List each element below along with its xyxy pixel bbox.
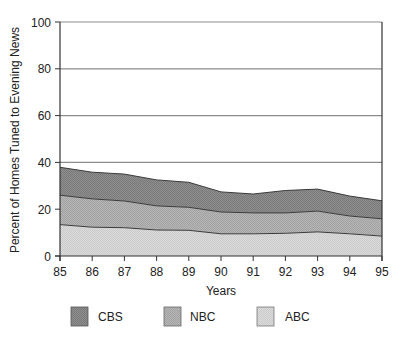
legend-label-nbc: NBC: [190, 310, 216, 324]
x-tick-label: 91: [247, 265, 261, 279]
y-tick-label: 40: [38, 156, 52, 170]
x-tick-label: 85: [53, 265, 67, 279]
stacked-area-chart: 020406080100 8586878889909192939495 Perc…: [0, 0, 402, 339]
legend-item-abc: ABC: [257, 307, 310, 326]
legend-swatch-nbc: [164, 307, 181, 326]
y-tick-label: 20: [38, 203, 52, 217]
y-axis-title: Percent of Homes Tuned to Evening News: [8, 27, 22, 253]
x-tick-label: 87: [118, 265, 132, 279]
legend: CBS NBC ABC: [71, 307, 310, 326]
x-tick-label: 90: [214, 265, 228, 279]
legend-swatch-cbs: [71, 307, 88, 326]
x-tick-label: 92: [279, 265, 293, 279]
x-tick-label: 86: [86, 265, 100, 279]
legend-item-cbs: CBS: [71, 307, 123, 326]
legend-swatch-abc: [257, 307, 274, 326]
legend-label-cbs: CBS: [98, 310, 123, 324]
x-axis-title: Years: [206, 284, 236, 298]
x-tick-label: 94: [343, 265, 357, 279]
x-tick-label: 93: [311, 265, 325, 279]
y-tick-label: 100: [31, 16, 51, 30]
legend-item-nbc: NBC: [164, 307, 216, 326]
x-tick-label: 95: [375, 265, 389, 279]
y-tick-label: 0: [44, 250, 51, 264]
x-tick-label: 88: [150, 265, 164, 279]
y-tick-label: 80: [38, 62, 52, 76]
x-axis-ticks: 8586878889909192939495: [53, 256, 389, 279]
x-tick-label: 89: [182, 265, 196, 279]
legend-label-abc: ABC: [285, 310, 310, 324]
y-tick-label: 60: [38, 109, 52, 123]
area-series: [60, 167, 382, 256]
y-axis-ticks: 020406080100: [31, 16, 60, 264]
